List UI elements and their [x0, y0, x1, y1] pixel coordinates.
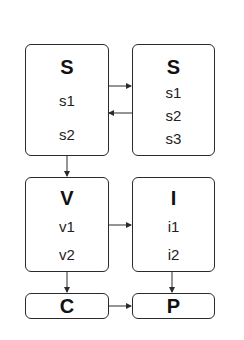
node-title: P — [133, 296, 214, 316]
node-item: s1 — [26, 93, 108, 108]
node-item: v1 — [26, 219, 108, 234]
node-item: s1 — [133, 85, 214, 100]
node-title: I — [133, 188, 214, 208]
node-title: S — [26, 57, 108, 77]
node-title: V — [26, 188, 108, 208]
node-c: C — [25, 293, 109, 319]
node-title: C — [26, 296, 108, 316]
node-item: s2 — [26, 127, 108, 142]
node-v: V v1 v2 — [25, 177, 109, 272]
node-i: I i1 i2 — [132, 177, 215, 272]
node-p: P — [132, 293, 215, 319]
node-item: i2 — [133, 247, 214, 262]
node-item: s2 — [133, 108, 214, 123]
node-s-right: S s1 s2 s3 — [132, 44, 215, 156]
node-title: S — [133, 57, 214, 77]
node-s-left: S s1 s2 — [25, 44, 109, 156]
node-item: i1 — [133, 219, 214, 234]
node-item: v2 — [26, 247, 108, 262]
node-item: s3 — [133, 131, 214, 146]
